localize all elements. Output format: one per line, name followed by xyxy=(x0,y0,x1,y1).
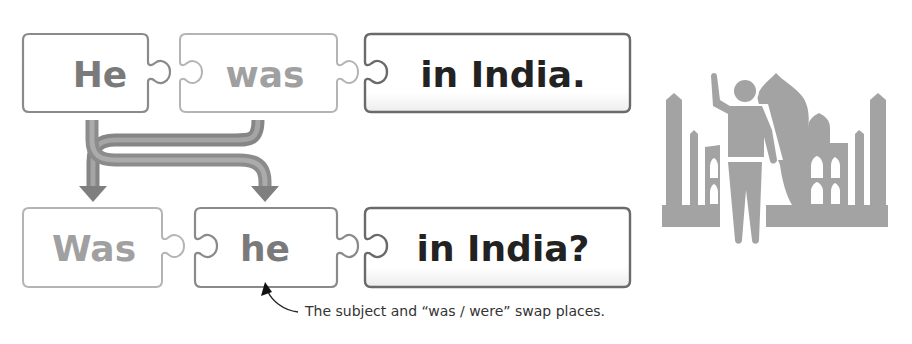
annotation-text: The subject and “was / were” swap places… xyxy=(304,303,605,319)
question-row: Was he in India? xyxy=(23,208,630,287)
swap-arrows xyxy=(79,120,279,202)
word-he: He xyxy=(73,54,128,95)
arrowhead-verb xyxy=(79,186,107,202)
diagram: He was in India. Was he in India? The su… xyxy=(0,0,912,344)
annotation-pointer xyxy=(268,292,298,312)
word-was: was xyxy=(226,54,305,95)
arrowhead-subject xyxy=(251,186,279,202)
word-in-india-question: in India? xyxy=(417,228,590,269)
word-in-india: in India. xyxy=(420,54,586,95)
word-he-question: he xyxy=(240,228,290,269)
swap-arrow-subject xyxy=(92,120,265,188)
tourist-at-taj-mahal-icon xyxy=(662,73,888,247)
statement-row: He was in India. xyxy=(23,34,630,112)
word-was-question: Was xyxy=(52,228,136,269)
